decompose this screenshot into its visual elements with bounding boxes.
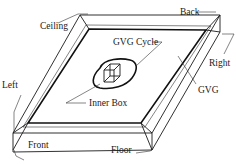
frame-top-outer — [13, 15, 220, 133]
leader-gvg — [178, 56, 196, 84]
bevel-back-right-down — [206, 30, 220, 32]
label-front: Front — [28, 140, 49, 150]
label-inner-box: Inner Box — [89, 98, 128, 108]
label-ceiling: Ceiling — [40, 21, 68, 31]
bevel-front-left-down — [13, 123, 28, 150]
inner-box-cube — [104, 64, 120, 82]
label-right: Right — [209, 58, 230, 68]
label-back: Back — [180, 7, 200, 17]
inner-rim — [13, 15, 220, 150]
bevel-front-left — [13, 123, 28, 133]
leader-right — [222, 34, 234, 54]
outer-frame — [13, 15, 220, 152]
label-gvg-cycle: GVG Cycle — [113, 37, 158, 47]
bevel-front-right-down — [141, 123, 152, 150]
label-floor: Floor — [111, 145, 132, 155]
label-left: Left — [2, 80, 18, 90]
gvg-frame-diagram: Ceiling Back GVG Cycle Right Left GVG In… — [0, 0, 236, 164]
leader-left — [14, 95, 21, 132]
label-gvg: GVG — [198, 85, 219, 95]
